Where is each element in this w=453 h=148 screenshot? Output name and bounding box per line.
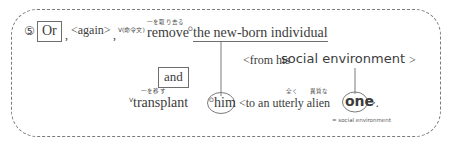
diagram-root: ⑤ Or , <again> , V(命令文) 一を取り去る remove O … (0, 0, 453, 148)
footnote-one-equals: = social environment (332, 118, 391, 124)
phrase-social-environment: social environment (281, 52, 405, 65)
word-remove: remove (147, 26, 189, 40)
sentence-tail: >. (369, 97, 379, 109)
comma-after-or: , (65, 29, 68, 41)
or-box: Or (37, 21, 62, 42)
phrase-new-born-individual: the new-born individual (193, 26, 328, 42)
item-number: ⑤ (24, 25, 35, 37)
close-bracket-line2: > (409, 54, 416, 66)
gloss-utterly: 全く (286, 89, 298, 95)
text-layer: ⑤ Or , <again> , V(命令文) 一を取り去る remove O … (0, 0, 453, 148)
word-transplant: transplant (133, 96, 188, 110)
verb-marker-imperative: V(命令文) (118, 27, 145, 33)
gloss-alien: 異質な (310, 89, 329, 95)
gloss-transplant: 一を移す (141, 89, 166, 95)
again-phrase: <again> (71, 24, 111, 36)
word-him: him (214, 96, 236, 110)
phrase-to-an-utterly-alien: <to an utterly alien (239, 97, 330, 109)
and-box: and (158, 67, 189, 88)
comma-after-again: , (113, 29, 116, 41)
